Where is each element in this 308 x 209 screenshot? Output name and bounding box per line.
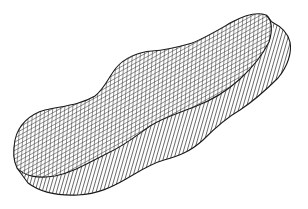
block-diagram <box>0 0 308 209</box>
